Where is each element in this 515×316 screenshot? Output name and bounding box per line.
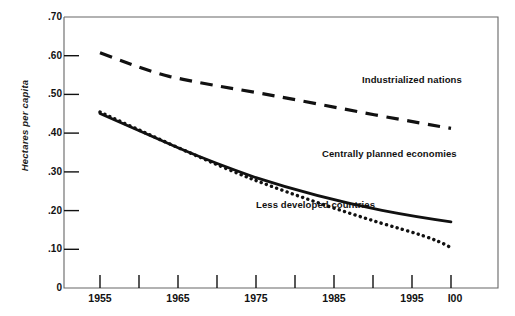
- figure-chart-hectares-per-capita: Hectares per capita .70 .60 .50 .40 .30 …: [0, 0, 515, 316]
- series-annotation-centrally-planned-economies: Centrally planned economies: [322, 148, 457, 159]
- x-axis-ticks: [100, 275, 451, 288]
- series-annotation-industrialized-nations: Industrialized nations: [362, 74, 462, 85]
- x-tick-label: 1985: [322, 292, 345, 304]
- series-industrialized-nations: [100, 53, 451, 129]
- x-tick-label: l00: [448, 292, 463, 304]
- y-tick-label: .60: [28, 51, 62, 61]
- series-annotation-less-developed-countries: Less developed countries: [256, 199, 375, 210]
- x-tick-label: 1975: [244, 292, 267, 304]
- x-tick-label: 1995: [400, 292, 423, 304]
- x-tick-label-group: 1955 1965 1975 1985 1995 l00: [0, 292, 515, 310]
- y-tick-label: .70: [28, 12, 62, 22]
- x-tick-label: 1965: [166, 292, 189, 304]
- x-tick-label: 1955: [88, 292, 111, 304]
- y-axis-ticks: [64, 56, 79, 250]
- y-tick-label: .40: [28, 128, 62, 138]
- series-less-developed-countries: [100, 112, 451, 248]
- y-tick-label: .10: [28, 244, 62, 254]
- y-tick-label-group: .70 .60 .50 .40 .30 .20 .10 0: [22, 0, 62, 316]
- y-tick-label: .20: [28, 206, 62, 216]
- y-tick-label: .30: [28, 167, 62, 177]
- y-tick-label: .50: [28, 89, 62, 99]
